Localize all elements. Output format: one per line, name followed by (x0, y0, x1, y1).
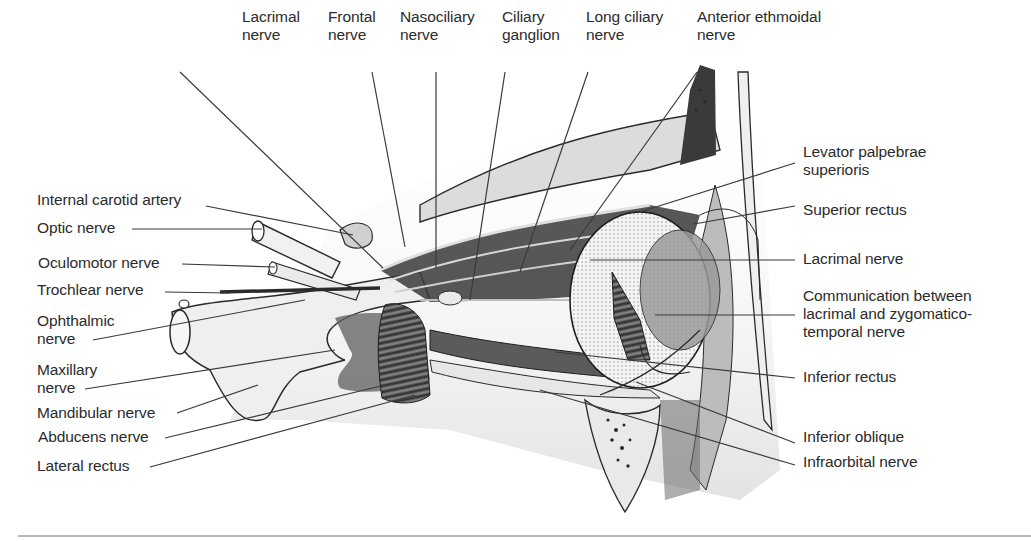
leader-line (182, 264, 275, 267)
label-ciliary-ganglion: Ciliaryganglion (502, 8, 560, 44)
label-mandibular-nerve: Mandibular nerve (37, 404, 155, 422)
label-abducens-nerve: Abducens nerve (38, 428, 149, 446)
label-line: Long ciliary (586, 8, 663, 26)
label-optic-nerve: Optic nerve (37, 219, 115, 237)
label-line: Lacrimal (242, 8, 300, 26)
label-levator-palpebrae-superioris: Levator palpebraesuperioris (803, 143, 926, 179)
label-oculomotor-nerve: Oculomotor nerve (38, 254, 160, 272)
label-infraorbital-nerve: Infraorbital nerve (803, 453, 918, 471)
label-line: nerve (400, 26, 475, 44)
label-line: nerve (242, 26, 300, 44)
label-line: Maxillary (37, 361, 97, 379)
label-line: lacrimal and zygomatico- (803, 305, 972, 323)
label-line: Frontal (328, 8, 376, 26)
label-lacrimal-nerve: Lacrimalnerve (242, 8, 300, 44)
label-line: Levator palpebrae (803, 143, 926, 161)
label-ophthalmic-nerve: Ophthalmicnerve (37, 312, 114, 348)
label-line: Inferior oblique (803, 428, 904, 446)
label-line: superioris (803, 161, 926, 179)
label-line: Mandibular nerve (37, 404, 155, 422)
label-line: ganglion (502, 26, 560, 44)
label-line: nerve (697, 26, 821, 44)
label-line: Abducens nerve (38, 428, 149, 446)
label-line: Ophthalmic (37, 312, 114, 330)
label-anterior-ethmoidal-nerve: Anterior ethmoidalnerve (697, 8, 821, 44)
label-lacrimal-nerve: Lacrimal nerve (803, 250, 903, 268)
label-line: Infraorbital nerve (803, 453, 918, 471)
label-maxillary-nerve: Maxillarynerve (37, 361, 97, 397)
label-inferior-rectus: Inferior rectus (803, 368, 896, 386)
label-line: Oculomotor nerve (38, 254, 160, 272)
leader-line (206, 206, 353, 235)
label-line: Inferior rectus (803, 368, 896, 386)
label-internal-carotid-artery: Internal carotid artery (37, 191, 181, 209)
label-line: temporal nerve (803, 323, 972, 341)
label-line: Superior rectus (803, 201, 907, 219)
label-line: Ciliary (502, 8, 560, 26)
label-line: Internal carotid artery (37, 191, 181, 209)
label-inferior-oblique: Inferior oblique (803, 428, 904, 446)
label-line: nerve (37, 379, 97, 397)
label-frontal-nerve: Frontalnerve (328, 8, 376, 44)
figure-bottom-rule (18, 535, 1031, 537)
label-line: Optic nerve (37, 219, 115, 237)
label-line: Anterior ethmoidal (697, 8, 821, 26)
label-line: Lacrimal nerve (803, 250, 903, 268)
label-long-ciliary-nerve: Long ciliarynerve (586, 8, 663, 44)
label-line: nerve (328, 26, 376, 44)
label-line: Lateral rectus (37, 457, 130, 475)
label-line: nerve (37, 330, 114, 348)
label-line: Trochlear nerve (37, 281, 143, 299)
label-lateral-rectus: Lateral rectus (37, 457, 130, 475)
label-nasociliary-nerve: Nasociliarynerve (400, 8, 475, 44)
label-line: Communication between (803, 287, 972, 305)
label-superior-rectus: Superior rectus (803, 201, 907, 219)
label-line: Nasociliary (400, 8, 475, 26)
label-communication-between-lacrimal-and-zygomatico-temporal-nerve: Communication betweenlacrimal and zygoma… (803, 287, 972, 341)
label-trochlear-nerve: Trochlear nerve (37, 281, 143, 299)
label-line: nerve (586, 26, 663, 44)
